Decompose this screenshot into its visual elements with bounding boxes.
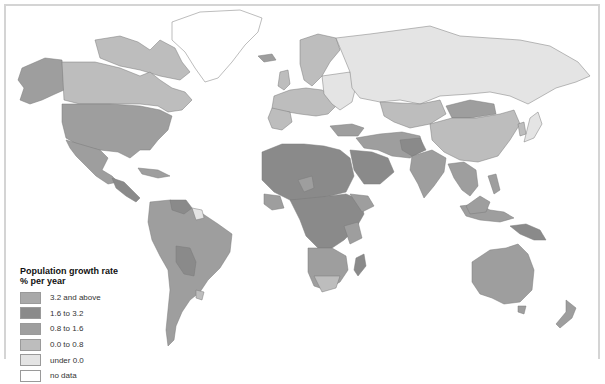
legend-swatch bbox=[20, 370, 41, 382]
legend-item: 1.6 to 3.2 bbox=[20, 306, 160, 322]
region-iceland bbox=[258, 54, 276, 62]
legend-label: under 0.0 bbox=[50, 356, 84, 365]
legend-swatch bbox=[20, 323, 41, 335]
region-central-america bbox=[112, 178, 140, 202]
region-north-africa bbox=[262, 144, 354, 200]
region-russia bbox=[336, 26, 590, 104]
region-east-africa bbox=[344, 222, 362, 244]
legend-item: no data bbox=[20, 368, 160, 384]
region-arabia bbox=[350, 150, 394, 184]
region-south-africa bbox=[314, 276, 340, 292]
legend-subtitle: % per year bbox=[20, 276, 160, 286]
legend-label: 1.6 to 3.2 bbox=[50, 309, 83, 318]
legend-swatch bbox=[20, 354, 41, 366]
legend-label: 3.2 and above bbox=[50, 293, 101, 302]
legend-label: 0.0 to 0.8 bbox=[50, 340, 83, 349]
legend-item: 0.8 to 1.6 bbox=[20, 321, 160, 337]
region-alaska bbox=[18, 58, 64, 104]
region-turkey bbox=[330, 124, 364, 136]
region-uruguay bbox=[196, 290, 204, 300]
region-uk bbox=[278, 70, 290, 90]
legend-label: 0.8 to 1.6 bbox=[50, 324, 83, 333]
region-madagascar bbox=[354, 254, 366, 276]
region-west-africa bbox=[264, 194, 284, 210]
legend-label: no data bbox=[50, 371, 77, 380]
legend-swatch bbox=[20, 292, 41, 304]
region-japan bbox=[524, 112, 542, 142]
region-new-guinea bbox=[510, 224, 546, 240]
legend-item: under 0.0 bbox=[20, 352, 160, 368]
region-india bbox=[410, 150, 446, 198]
region-korea bbox=[518, 122, 526, 136]
legend-title: Population growth rate bbox=[20, 266, 160, 276]
region-philippines bbox=[488, 174, 500, 194]
region-new-zealand bbox=[556, 300, 576, 328]
legend-swatch bbox=[20, 307, 41, 319]
legend-items: 3.2 and above 1.6 to 3.2 0.8 to 1.6 0.0 … bbox=[20, 290, 160, 384]
region-china bbox=[430, 110, 520, 162]
region-australia bbox=[472, 244, 534, 304]
region-tasmania bbox=[518, 306, 526, 314]
legend-item: 0.0 to 0.8 bbox=[20, 337, 160, 353]
legend: Population growth rate % per year 3.2 an… bbox=[20, 266, 160, 384]
region-caribbean bbox=[138, 168, 170, 178]
legend-item: 3.2 and above bbox=[20, 290, 160, 306]
region-mongolia bbox=[446, 100, 496, 118]
region-borneo bbox=[466, 196, 490, 214]
region-southeast-asia bbox=[448, 162, 478, 196]
legend-swatch bbox=[20, 339, 41, 351]
